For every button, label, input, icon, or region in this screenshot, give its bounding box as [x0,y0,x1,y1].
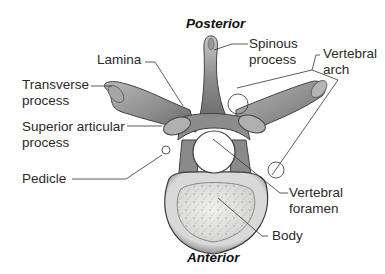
label-superior-articular-line1: Superior articular [22,119,125,135]
label-transverse-process-line2: process [22,93,69,109]
label-superior-articular-line2: process [22,135,69,151]
spinous-process-shape [200,36,226,116]
label-transverse-process-line1: Transverse [22,77,89,93]
label-vertebral-arch-line1: Vertebral [323,46,377,62]
orientation-anterior: Anterior [187,250,240,265]
label-lamina: Lamina [97,52,141,68]
label-pedicle: Pedicle [22,171,66,187]
label-spinous-process-line2: process [249,52,296,68]
label-vertebral-foramen-line1: Vertebral [289,185,343,201]
label-spinous-process-line1: Spinous [249,36,298,52]
label-body: Body [272,228,303,244]
vertebra-diagram: Posterior Anterior Lamina Spinous proces… [0,0,385,274]
orientation-posterior: Posterior [186,16,245,31]
label-vertebral-arch-line2: arch [323,62,349,78]
label-vertebral-foramen-line2: foramen [289,201,339,217]
